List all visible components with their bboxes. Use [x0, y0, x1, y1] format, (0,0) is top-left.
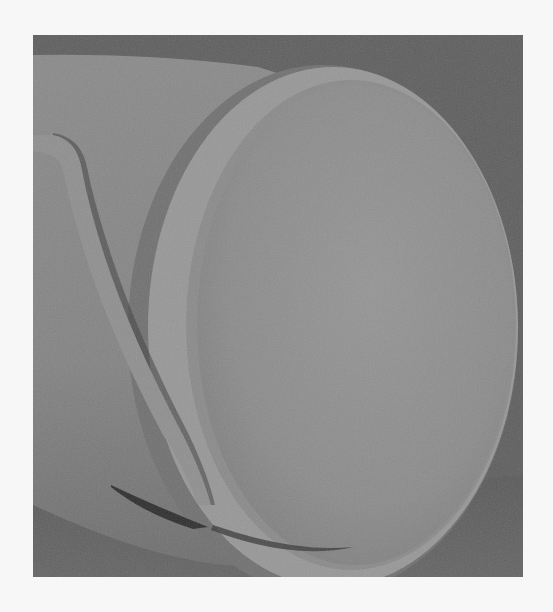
film-grain — [33, 35, 523, 577]
render-frame — [33, 35, 523, 577]
render-scene — [33, 35, 523, 577]
